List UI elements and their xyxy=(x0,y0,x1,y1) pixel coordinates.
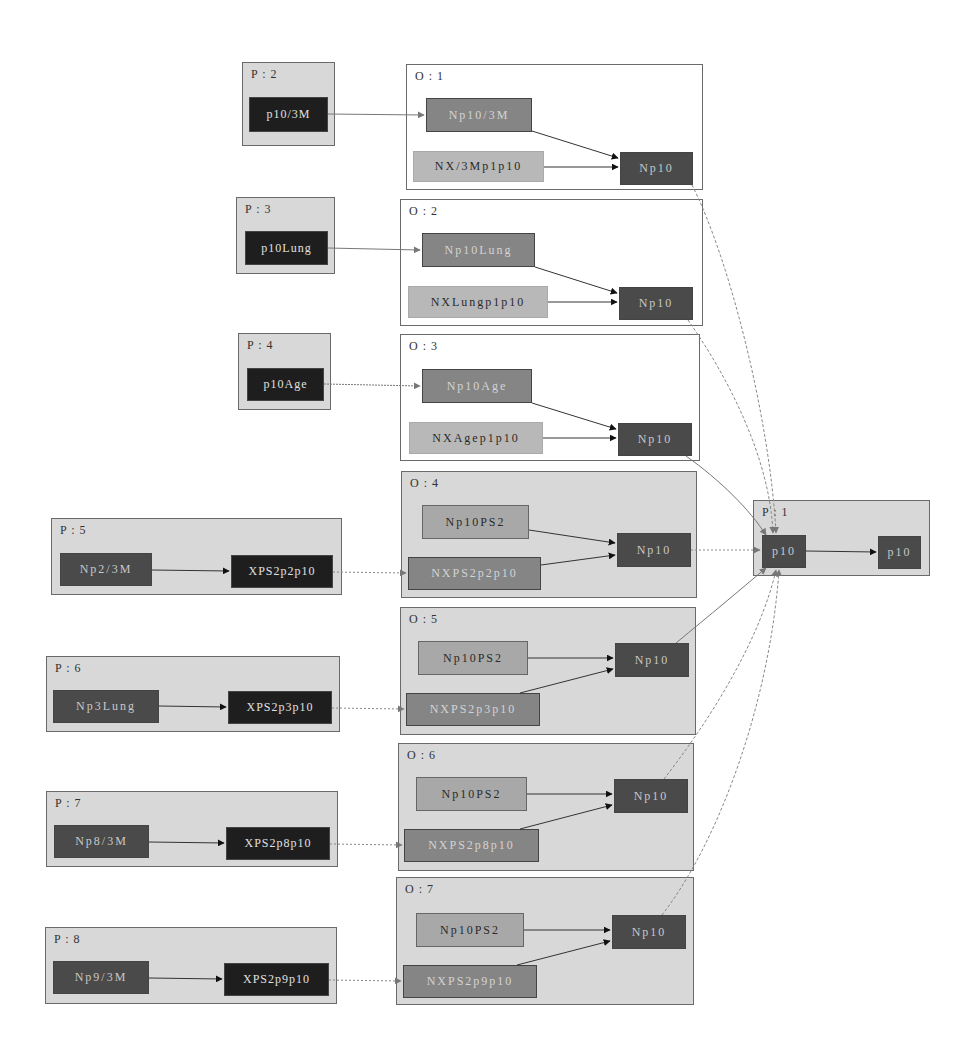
node-np10-3m[interactable]: Np10/3M xyxy=(426,98,532,132)
cluster-label: P : 5 xyxy=(60,523,87,538)
cluster-label: P : 3 xyxy=(245,202,272,217)
cluster-label: O : 4 xyxy=(410,476,439,491)
node-nxps2p3p10[interactable]: NXPS2p3p10 xyxy=(406,693,540,726)
node-xps2p3p10[interactable]: XPS2p3p10 xyxy=(228,691,332,724)
cluster-label: P : 7 xyxy=(55,796,82,811)
node-np10-o5[interactable]: Np10 xyxy=(615,643,689,677)
node-nxlungp1p10[interactable]: NXLungp1p10 xyxy=(408,286,548,318)
cluster-label: O : 7 xyxy=(405,882,434,897)
node-np10age[interactable]: Np10Age xyxy=(422,369,532,403)
cluster-label: P : 6 xyxy=(55,661,82,676)
cluster-label: P : 4 xyxy=(247,338,274,353)
node-nxps2p2p10[interactable]: NXPS2p2p10 xyxy=(408,557,541,590)
cluster-label: P : 8 xyxy=(54,932,81,947)
node-np10ps2-o5[interactable]: Np10PS2 xyxy=(418,641,528,675)
node-np10ps2-o6[interactable]: Np10PS2 xyxy=(416,777,527,811)
cluster-label: P : 1 xyxy=(762,505,789,520)
node-xps2p8p10[interactable]: XPS2p8p10 xyxy=(226,827,330,860)
node-np10lung[interactable]: Np10Lung xyxy=(422,233,535,267)
node-nxps2p9p10[interactable]: NXPS2p9p10 xyxy=(403,965,537,998)
node-xps2p2p10[interactable]: XPS2p2p10 xyxy=(231,555,333,588)
node-nx-3mp1p10[interactable]: NX/3Mp1p10 xyxy=(413,151,544,182)
node-nxagep1p10[interactable]: NXAgep1p10 xyxy=(409,422,543,454)
node-np10-o3[interactable]: Np10 xyxy=(618,423,692,456)
node-p10lung[interactable]: p10Lung xyxy=(245,231,328,265)
node-p10age[interactable]: p10Age xyxy=(247,368,324,401)
node-np10-o7[interactable]: Np10 xyxy=(612,915,686,949)
node-np2-3m[interactable]: Np2/3M xyxy=(60,553,152,586)
node-np10-o1[interactable]: Np10 xyxy=(620,152,693,185)
node-p10-target[interactable]: p10 xyxy=(878,536,921,569)
cluster-label: O : 1 xyxy=(415,69,444,84)
diagram-canvas: P : 2 p10/3M P : 3 p10Lung P : 4 p10Age … xyxy=(0,0,974,1055)
node-np10ps2-o4[interactable]: Np10PS2 xyxy=(422,505,529,539)
node-np10ps2-o7[interactable]: Np10PS2 xyxy=(416,913,524,947)
node-nxps2p8p10[interactable]: NXPS2p8p10 xyxy=(404,829,539,862)
node-np8-3m[interactable]: Np8/3M xyxy=(54,825,149,858)
node-np10-o4[interactable]: Np10 xyxy=(617,533,691,567)
cluster-label: O : 6 xyxy=(407,748,436,763)
node-xps2p9p10[interactable]: XPS2p9p10 xyxy=(224,963,329,996)
node-np3lung[interactable]: Np3Lung xyxy=(53,690,159,723)
cluster-label: O : 5 xyxy=(409,612,438,627)
cluster-label: O : 3 xyxy=(409,339,438,354)
cluster-label: O : 2 xyxy=(409,204,438,219)
node-np10-o6[interactable]: Np10 xyxy=(614,779,688,813)
node-np10-o2[interactable]: Np10 xyxy=(619,287,693,320)
node-p10-3m[interactable]: p10/3M xyxy=(249,97,328,132)
cluster-label: P : 2 xyxy=(251,67,278,82)
node-np9-3m[interactable]: Np9/3M xyxy=(53,961,149,994)
node-p10-source[interactable]: p10 xyxy=(762,535,806,568)
